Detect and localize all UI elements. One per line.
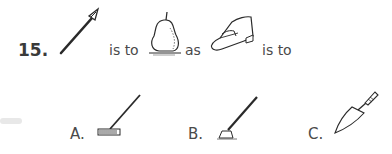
shoe-icon bbox=[208, 14, 256, 52]
spear-icon bbox=[58, 6, 102, 56]
connector-is-to-1: is to bbox=[109, 42, 139, 58]
option-b-label[interactable]: B. bbox=[188, 125, 203, 143]
pear-icon bbox=[145, 8, 183, 56]
scan-smudge bbox=[0, 118, 22, 124]
connector-is-to-2: is to bbox=[262, 42, 292, 58]
option-a-label[interactable]: A. bbox=[70, 125, 85, 143]
rake-icon[interactable] bbox=[96, 92, 142, 142]
trowel-icon[interactable] bbox=[330, 86, 380, 138]
question-number: 15. bbox=[18, 40, 48, 60]
option-c-label[interactable]: C. bbox=[308, 125, 323, 143]
hoe-icon[interactable] bbox=[215, 94, 261, 142]
connector-as: as bbox=[185, 42, 201, 58]
